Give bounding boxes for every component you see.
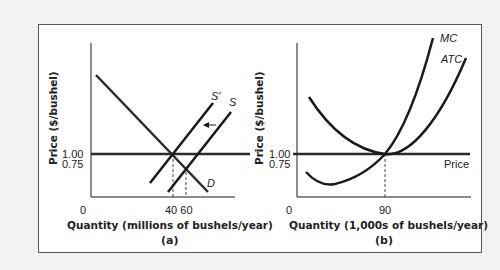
panel-a: S' S D 1.00 0.75 0 40 60 Price ($/bushel…	[47, 43, 273, 247]
panel-a-y-title: Price ($/bushel)	[47, 71, 59, 165]
label-atc: ATC	[440, 53, 462, 65]
mc-curve	[306, 38, 433, 185]
panel-b-y-title: Price ($/bushel)	[253, 71, 265, 165]
panel-a-xtick-40-60: 40 60	[165, 204, 193, 216]
label-s-prime: S'	[211, 90, 221, 102]
panel-a-ytick-0-75: 0.75	[62, 158, 83, 170]
label-mc: MC	[440, 32, 457, 44]
supply-curve-original	[168, 112, 231, 192]
panel-a-label: (a)	[161, 234, 178, 247]
panel-b-ytick-0-75: 0.75	[269, 158, 290, 170]
panel-b-xtick-0: 0	[286, 204, 292, 216]
panel-b-xtick-90: 90	[379, 204, 391, 216]
demand-curve	[96, 75, 208, 192]
label-s: S	[229, 96, 237, 108]
panel-b-x-title: Quantity (1,000s of bushels/year)	[289, 219, 488, 231]
panel-a-xtick-0: 0	[80, 204, 86, 216]
chart-svg: S' S D 1.00 0.75 0 40 60 Price ($/bushel…	[0, 0, 500, 270]
label-price: Price	[444, 158, 469, 170]
label-d: D	[207, 177, 215, 189]
atc-curve	[309, 58, 466, 154]
panel-b: MC ATC Price 1.00 0.75 0 90 Price ($/bus…	[253, 32, 488, 247]
panel-a-x-title: Quantity (millions of bushels/year)	[67, 219, 273, 231]
panel-b-label: (b)	[375, 234, 393, 247]
